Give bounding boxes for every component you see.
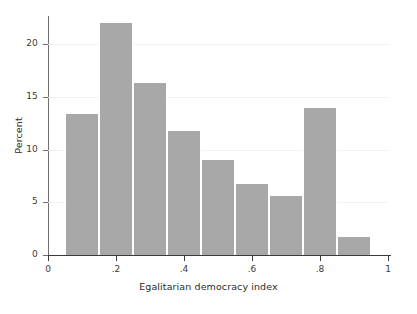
histogram-bar xyxy=(133,83,167,255)
x-tick-label: .2 xyxy=(101,264,131,274)
x-tick-label: .4 xyxy=(169,264,199,274)
x-tick-mark xyxy=(48,256,49,261)
histogram-bar xyxy=(201,160,235,255)
histogram-chart: Percent 05101520 0.2.4.6.81 Egalitarian … xyxy=(0,0,417,314)
plot-area xyxy=(48,18,388,255)
histogram-bar xyxy=(99,23,133,255)
y-tick-label: 20 xyxy=(26,38,38,48)
histogram-bar xyxy=(337,237,371,255)
y-tick-label: 10 xyxy=(26,144,38,154)
x-tick-mark xyxy=(116,256,117,261)
y-tick-label: 0 xyxy=(32,249,38,259)
histogram-bar xyxy=(303,108,337,255)
x-tick-label: .8 xyxy=(305,264,335,274)
y-tick-label: 5 xyxy=(32,196,38,206)
x-tick-label: 1 xyxy=(373,264,403,274)
x-tick-mark xyxy=(184,256,185,261)
x-tick-mark xyxy=(252,256,253,261)
x-axis-line xyxy=(48,255,391,256)
histogram-bar xyxy=(65,114,99,255)
x-tick-label: 0 xyxy=(33,264,63,274)
x-tick-mark xyxy=(388,256,389,261)
y-tick-label: 15 xyxy=(26,91,38,101)
histogram-bar xyxy=(167,131,201,255)
x-tick-mark xyxy=(320,256,321,261)
x-tick-label: .6 xyxy=(237,264,267,274)
histogram-bar xyxy=(269,196,303,255)
x-axis-title: Egalitarian democracy index xyxy=(0,281,417,292)
histogram-bar xyxy=(235,184,269,255)
y-axis-title: Percent xyxy=(13,106,24,166)
